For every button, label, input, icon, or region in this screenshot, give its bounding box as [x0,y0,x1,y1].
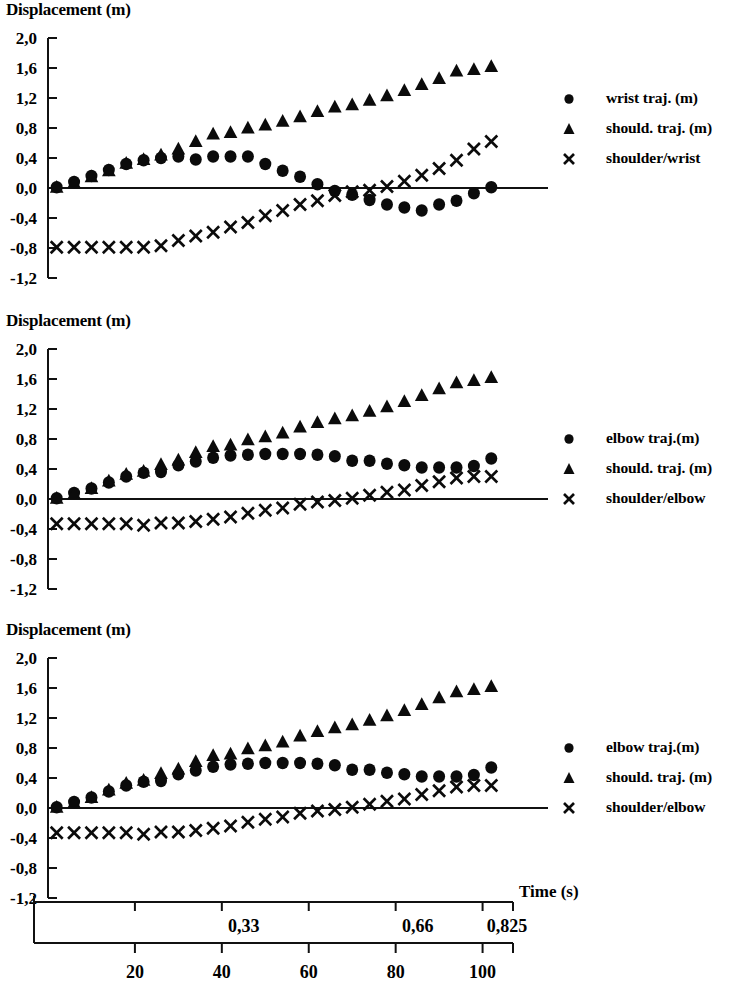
legend-label: wrist traj. (m) [606,83,698,113]
data-point-triangle [293,420,307,433]
data-point-triangle [276,426,290,439]
data-point-triangle [189,134,203,147]
data-point-triangle [241,433,255,446]
data-point-triangle [484,370,498,383]
data-point-circle [311,449,323,461]
chart-panel-2: Displacement (m) 2,01,61,20,80,40,0-0,4-… [0,311,741,611]
data-point-triangle [258,739,272,752]
data-point-circle [294,757,306,769]
chart-panel-3: Displacement (m) 2,01,61,20,80,40,0-0,4-… [0,620,741,999]
y-tick-label: -0,8 [10,239,37,258]
data-point-circle [329,450,341,462]
data-point-circle [311,758,323,770]
y-tick-label: -1,2 [10,580,37,599]
data-point-triangle [345,409,359,422]
legend-marker-triangle-icon [560,762,582,792]
y-tick-label: -0,4 [10,209,37,228]
legend-label: shoulder/elbow [606,792,705,822]
data-point-triangle [311,724,325,737]
y-tick-label: 1,6 [16,679,37,698]
data-point-triangle [363,713,377,726]
y-tick-label: 1,2 [16,709,37,728]
data-point-circle [468,187,480,199]
data-point-circle [398,768,410,780]
legend-label: should. traj. (m) [606,762,712,792]
data-point-circle [416,461,428,473]
time-tick-label: 0,825 [487,916,528,936]
legend-marker-cross-icon [560,792,582,822]
data-point-triangle [380,709,394,722]
data-point-triangle [206,748,220,761]
series-triangle [50,679,498,813]
frame-tick-label: 60 [300,962,318,982]
data-point-circle [259,757,271,769]
data-point-triangle [293,729,307,742]
data-point-circle [564,94,573,104]
data-point-triangle [224,747,238,760]
data-point-triangle [189,445,203,458]
y-tick-label: 0,8 [16,119,37,138]
frame-tick-label: 40 [213,962,231,982]
data-point-circle [242,758,254,770]
y-tick-label: 1,6 [16,59,37,78]
data-point-circle [451,195,463,207]
y-tick-label: 2,0 [16,649,37,668]
legend-label: shoulder/wrist [606,143,700,173]
data-point-circle [398,459,410,471]
legend-label: should. traj. (m) [606,453,712,483]
panel-2-plot: 2,01,61,20,80,40,0-0,4-0,8-1,2 [0,331,560,631]
data-point-triangle [363,93,377,106]
series-circle [51,448,498,505]
data-point-triangle [276,735,290,748]
y-tick-label: 2,0 [16,29,37,48]
data-point-circle [416,770,428,782]
data-point-circle [242,449,254,461]
data-point-triangle [467,62,481,75]
data-point-triangle [172,453,186,466]
y-tick-label: 0,4 [16,149,38,168]
frame-tick-label: 100 [469,962,496,982]
y-tick-label: 1,6 [16,370,37,389]
data-point-circle [398,201,410,213]
data-point-triangle [398,703,412,716]
data-point-circle [294,171,306,183]
data-point-triangle [206,439,220,452]
data-point-triangle [258,430,272,443]
scientific-figure: Displacement (m) 2,01,61,20,80,40,0-0,4-… [0,0,741,999]
frame-tick-label: 20 [126,962,144,982]
data-point-triangle [224,125,238,138]
data-point-circle [225,150,237,162]
data-point-circle [564,434,573,444]
data-point-triangle [432,71,446,84]
data-point-triangle [564,123,575,134]
data-point-circle [364,455,376,467]
series-cross [51,780,498,841]
y-tick-label: 0,8 [16,739,37,758]
legend-label: elbow traj.(m) [606,423,699,453]
data-point-triangle [311,104,325,117]
panel-1-y-axis-title: Displacement (m) [6,0,131,20]
legend-label: should. traj. (m) [606,113,712,143]
data-point-circle [346,455,358,467]
data-point-triangle [450,64,464,77]
data-point-triangle [564,772,575,783]
data-point-circle [468,769,480,781]
data-point-triangle [432,691,446,704]
y-tick-label: 0,0 [16,179,37,198]
panel-3-y-axis-title: Displacement (m) [6,620,131,640]
data-point-circle [242,150,254,162]
legend-marker-triangle-icon [560,453,582,483]
data-point-triangle [154,766,168,779]
panel-2-y-axis-title: Displacement (m) [6,311,131,331]
y-tick-label: -0,4 [10,520,37,539]
data-point-circle [277,448,289,460]
data-point-circle [433,770,445,782]
data-point-triangle [380,89,394,102]
data-point-triangle [467,373,481,386]
data-point-circle [225,758,237,770]
data-point-triangle [328,412,342,425]
data-point-circle [433,461,445,473]
data-point-circle [381,458,393,470]
data-point-triangle [154,457,168,470]
series-cross [51,471,498,532]
